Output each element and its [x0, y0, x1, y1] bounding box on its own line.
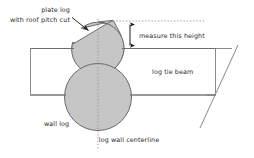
label-plate-log-line1: plate log — [41, 6, 70, 14]
plate-log-leader-arrow — [72, 18, 89, 31]
label-log-wall-centerline: log wall centerline — [99, 136, 160, 144]
label-measure-this-height: measure this height — [139, 32, 205, 40]
log-tie-beam-shape — [31, 45, 239, 128]
log-joinery-diagram: plate log with roof pitch cut measure th… — [0, 0, 254, 158]
label-log-tie-beam: log tie beam — [152, 68, 193, 76]
diagram-canvas: plate log with roof pitch cut measure th… — [0, 0, 254, 158]
label-wall-log: wall log — [44, 120, 69, 128]
label-plate-log-line2: with roof pitch cut — [10, 16, 70, 24]
